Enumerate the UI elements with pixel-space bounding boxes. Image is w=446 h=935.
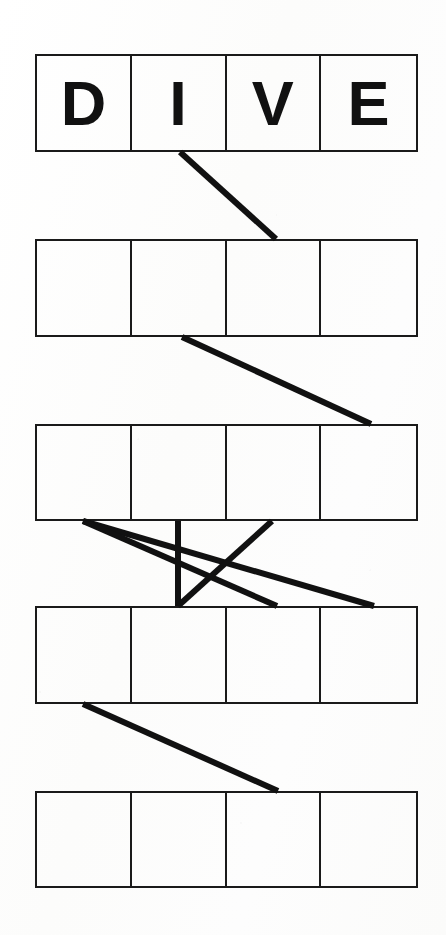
word-row bbox=[35, 791, 418, 888]
word-cell[interactable] bbox=[321, 608, 416, 702]
word-cell[interactable] bbox=[227, 608, 322, 702]
word-row bbox=[35, 606, 418, 704]
word-row: D I V E bbox=[35, 54, 418, 152]
connector-row2-to-row3 bbox=[182, 337, 371, 424]
word-cell[interactable] bbox=[321, 241, 416, 335]
word-cell[interactable] bbox=[227, 241, 322, 335]
connector-row1-to-row2 bbox=[180, 152, 276, 239]
word-cell[interactable]: D bbox=[37, 56, 132, 150]
word-row bbox=[35, 424, 418, 521]
connector-row3-to-row4-a bbox=[83, 521, 374, 606]
word-row bbox=[35, 239, 418, 337]
word-cell[interactable]: I bbox=[132, 56, 227, 150]
connector-row4-to-row3-diagonal bbox=[178, 521, 272, 606]
word-cell[interactable] bbox=[227, 793, 322, 886]
word-cell[interactable] bbox=[37, 793, 132, 886]
word-cell[interactable] bbox=[37, 426, 132, 519]
word-cell[interactable] bbox=[227, 426, 322, 519]
connector-row3-to-row4-b bbox=[83, 521, 277, 606]
word-cell[interactable] bbox=[132, 241, 227, 335]
word-cell[interactable] bbox=[132, 608, 227, 702]
word-cell[interactable] bbox=[37, 241, 132, 335]
puzzle-sheet: D I V E bbox=[0, 0, 446, 935]
word-cell[interactable]: V bbox=[227, 56, 322, 150]
word-cell[interactable] bbox=[37, 608, 132, 702]
connector-row4-to-row5 bbox=[83, 704, 278, 791]
word-cell[interactable] bbox=[321, 793, 416, 886]
word-cell[interactable]: E bbox=[321, 56, 416, 150]
word-cell[interactable] bbox=[132, 793, 227, 886]
word-cell[interactable] bbox=[321, 426, 416, 519]
word-cell[interactable] bbox=[132, 426, 227, 519]
